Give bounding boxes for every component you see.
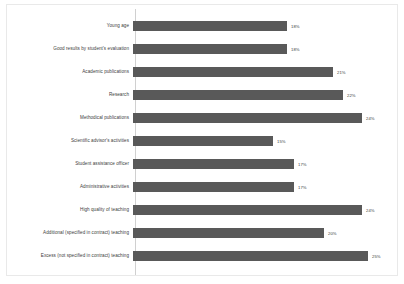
bar-track: 24% xyxy=(133,107,404,130)
bar-track: 21% xyxy=(133,61,404,84)
bar-row: High quality of teaching 24% xyxy=(0,199,404,222)
bar xyxy=(133,205,362,215)
bar-value-label: 25% xyxy=(372,254,381,259)
bar-row: Excess (not specified in contract) teach… xyxy=(0,245,404,268)
bar-value-label: 15% xyxy=(277,139,286,144)
bar xyxy=(133,90,343,100)
bar-rows-container: Young age 18% Good results by student's … xyxy=(0,0,404,284)
bar-row: Administrative activities 17% xyxy=(0,176,404,199)
category-label: Research xyxy=(0,92,133,97)
category-label: Additional (specified in contract) teach… xyxy=(0,230,133,235)
bar-value-label: 17% xyxy=(298,162,307,167)
category-label: Good results by student's evaluation xyxy=(0,46,133,51)
bar-track: 24% xyxy=(133,199,404,222)
category-label: Scientific advisor's activities xyxy=(0,138,133,143)
bar-track: 17% xyxy=(133,176,404,199)
bar-value-label: 24% xyxy=(366,116,375,121)
bar-row: Additional (specified in contract) teach… xyxy=(0,222,404,245)
bar-value-label: 21% xyxy=(337,70,346,75)
bar xyxy=(133,113,362,123)
horizontal-bar-chart: Young age 18% Good results by student's … xyxy=(0,0,404,284)
category-label: Administrative activities xyxy=(0,184,133,189)
bar xyxy=(133,21,287,31)
bar-value-label: 18% xyxy=(291,47,300,52)
category-label: Academic publications xyxy=(0,69,133,74)
bar xyxy=(133,251,368,261)
bar-track: 22% xyxy=(133,84,404,107)
category-label: Student assistance officer xyxy=(0,161,133,166)
bar xyxy=(133,67,333,77)
bar-row: Student assistance officer 17% xyxy=(0,153,404,176)
bar-value-label: 22% xyxy=(347,93,356,98)
bar-row: Research 22% xyxy=(0,84,404,107)
bar-track: 17% xyxy=(133,153,404,176)
bar-track: 15% xyxy=(133,130,404,153)
bar-row: Academic publications 21% xyxy=(0,61,404,84)
bar-value-label: 17% xyxy=(298,185,307,190)
bar xyxy=(133,44,287,54)
bar-value-label: 20% xyxy=(328,231,337,236)
category-label: Excess (not specified in contract) teach… xyxy=(0,253,133,258)
category-label: High quality of teaching xyxy=(0,207,133,212)
bar-track: 20% xyxy=(133,222,404,245)
bar-row: Good results by student's evaluation 18% xyxy=(0,38,404,61)
bar xyxy=(133,159,294,169)
category-label: Young age xyxy=(0,23,133,28)
bar-row: Scientific advisor's activities 15% xyxy=(0,130,404,153)
bar-track: 18% xyxy=(133,15,404,38)
bar-row: Methodical publications 24% xyxy=(0,107,404,130)
bar-row: Young age 18% xyxy=(0,15,404,38)
category-label: Methodical publications xyxy=(0,115,133,120)
bar-track: 18% xyxy=(133,38,404,61)
bar xyxy=(133,136,273,146)
bar-value-label: 18% xyxy=(291,24,300,29)
bar-track: 25% xyxy=(133,245,404,268)
bar xyxy=(133,182,294,192)
bar-value-label: 24% xyxy=(366,208,375,213)
bar xyxy=(133,228,324,238)
